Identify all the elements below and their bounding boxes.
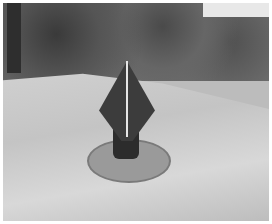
tree-trunk [7,3,21,73]
marker-rib [126,61,128,137]
sky [203,3,269,17]
photo [3,3,269,221]
